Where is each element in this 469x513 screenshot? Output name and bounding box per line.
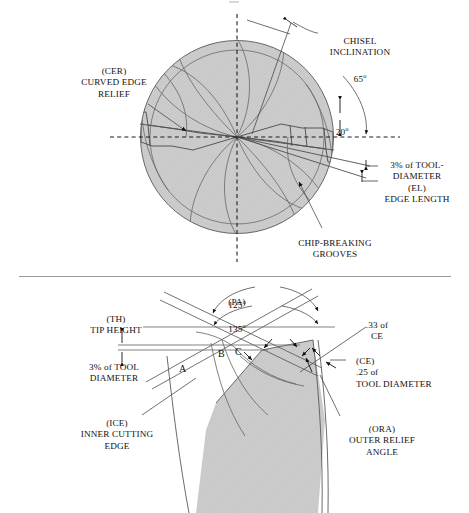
pa-135-number: 135 (228, 324, 242, 334)
label-tip-height: (TH) TIP HEIGHT (62, 314, 170, 337)
label-edge-length: 3% of TOOL- DIAMETER (EL) EDGE LENGTH (366, 160, 468, 206)
label-tool-diameter-3-percent: 3% of TOOL DIAMETER (58, 362, 170, 385)
label-zone-b: B (218, 348, 225, 359)
chisel-angle-degree-symbol: o (363, 72, 366, 79)
label-chisel-inclination: CHISEL INCLINATION (312, 36, 408, 59)
label-chisel-inclination-value: 65o (312, 59, 408, 86)
label-point-angle-135: 135o (215, 309, 259, 336)
pa-135-degree-symbol: o (243, 322, 246, 329)
label-point-angle-tag: (PA) (215, 297, 259, 308)
label-zone-a: A (179, 363, 186, 374)
angle-20-degree-symbol: o (345, 125, 348, 132)
label-angle-20: 20o (325, 112, 359, 139)
label-inner-cutting-edge: (ICE) INNER CUTTING EDGE (58, 418, 176, 452)
label-chip-breaking-grooves: CHIP-BREAKING GROOVES (275, 238, 395, 261)
label-ce-25: (CE) .25 of TOOL DIAMETER (356, 356, 468, 390)
label-outer-relief-angle: (ORA) OUTER RELIEF ANGLE (326, 424, 438, 458)
angle-20-number: 20 (336, 127, 346, 137)
label-curved-edge-relief: (CER) CURVED EDGE RELIEF (62, 66, 166, 100)
label-ce-33: .33 of CE (346, 320, 408, 343)
label-zone-c: C (235, 346, 242, 357)
figure-divider (19, 276, 451, 277)
figure-page: (CER) CURVED EDGE RELIEF CHISEL INCLINAT… (0, 0, 469, 513)
chisel-angle-number: 65 (354, 74, 364, 84)
drill-flute-shaded-body (196, 340, 325, 513)
